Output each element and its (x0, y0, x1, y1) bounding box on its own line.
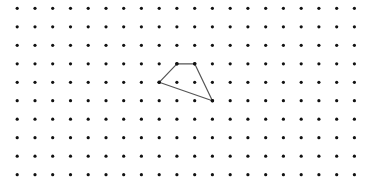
grid-dot (211, 81, 214, 84)
grid-dot (246, 118, 249, 121)
grid-dot (51, 44, 54, 47)
grid-dot (87, 81, 90, 84)
grid-dot (104, 7, 107, 10)
grid-dot (122, 118, 125, 121)
grid-dot (16, 155, 19, 158)
grid-dot (104, 173, 107, 176)
grid-dot (300, 118, 303, 121)
grid-dot (300, 136, 303, 139)
grid-dot (282, 155, 285, 158)
polygon-vertex (157, 81, 161, 85)
dot-grid-canvas (0, 0, 375, 184)
grid-dot (264, 173, 267, 176)
grid-dot (51, 7, 54, 10)
grid-dot (317, 118, 320, 121)
grid-dot (175, 7, 178, 10)
grid-dot (33, 118, 36, 121)
grid-dot (122, 155, 125, 158)
polygon-vertex (193, 62, 197, 66)
grid-dot (87, 99, 90, 102)
grid-dot (51, 173, 54, 176)
grid-dot (69, 155, 72, 158)
grid-dot (282, 136, 285, 139)
grid-dot (229, 118, 232, 121)
grid-dot (104, 155, 107, 158)
grid-dot (51, 81, 54, 84)
grid-dot (104, 136, 107, 139)
grid-dot (317, 7, 320, 10)
grid-dot (335, 25, 338, 28)
grid-dot (335, 155, 338, 158)
grid-dot (158, 62, 161, 65)
grid-dot (229, 81, 232, 84)
grid-dot (69, 25, 72, 28)
grid-dot (69, 136, 72, 139)
quadrilateral (157, 62, 214, 102)
grid-dot (264, 118, 267, 121)
grid-dot (33, 7, 36, 10)
grid-dot (158, 99, 161, 102)
grid-dot (87, 118, 90, 121)
grid-dot (140, 81, 143, 84)
grid-dot (211, 118, 214, 121)
grid-dot (51, 99, 54, 102)
grid-dot (122, 25, 125, 28)
grid-dot (246, 62, 249, 65)
grid-dot (193, 44, 196, 47)
grid-dot (300, 25, 303, 28)
grid-dot (51, 118, 54, 121)
grid-dot (158, 44, 161, 47)
grid-dot (87, 173, 90, 176)
grid-dot (158, 155, 161, 158)
grid-dot (33, 99, 36, 102)
grid-dot (211, 44, 214, 47)
grid-dot (353, 25, 356, 28)
grid-dot (282, 99, 285, 102)
grid-dot (317, 81, 320, 84)
grid-dot (140, 25, 143, 28)
grid-dot (335, 118, 338, 121)
grid-dot (246, 7, 249, 10)
grid-dot (246, 173, 249, 176)
grid-dot (175, 44, 178, 47)
grid-dot (140, 44, 143, 47)
grid-dot (353, 44, 356, 47)
grid-dot (229, 173, 232, 176)
grid-dot (16, 99, 19, 102)
grid-dot (264, 155, 267, 158)
grid-dot (69, 62, 72, 65)
grid-dot (317, 62, 320, 65)
grid-dot (282, 173, 285, 176)
grid-dot (353, 99, 356, 102)
grid-dot (16, 44, 19, 47)
grid-dot (104, 118, 107, 121)
grid-dot (317, 25, 320, 28)
grid-dot (33, 173, 36, 176)
grid-dot (33, 136, 36, 139)
grid-dot (33, 62, 36, 65)
grid-dot (282, 44, 285, 47)
grid-dot (300, 155, 303, 158)
grid-dot (193, 25, 196, 28)
grid-dot (246, 99, 249, 102)
grid-dot (193, 81, 196, 84)
grid-dot (282, 25, 285, 28)
grid-dot (104, 62, 107, 65)
grid-dot (335, 44, 338, 47)
grid-dot (87, 136, 90, 139)
grid-dot (353, 81, 356, 84)
grid-dot (193, 136, 196, 139)
grid-dot (211, 7, 214, 10)
grid-dot (353, 136, 356, 139)
grid-dot (335, 99, 338, 102)
grid-dot (282, 62, 285, 65)
grid-dot (158, 173, 161, 176)
grid-dot (51, 62, 54, 65)
polygon-outline (159, 64, 212, 101)
grid-dot (353, 155, 356, 158)
grid-dot (16, 62, 19, 65)
grid-dot (69, 99, 72, 102)
grid-dot (122, 173, 125, 176)
grid-dot (193, 7, 196, 10)
grid-dot (229, 7, 232, 10)
